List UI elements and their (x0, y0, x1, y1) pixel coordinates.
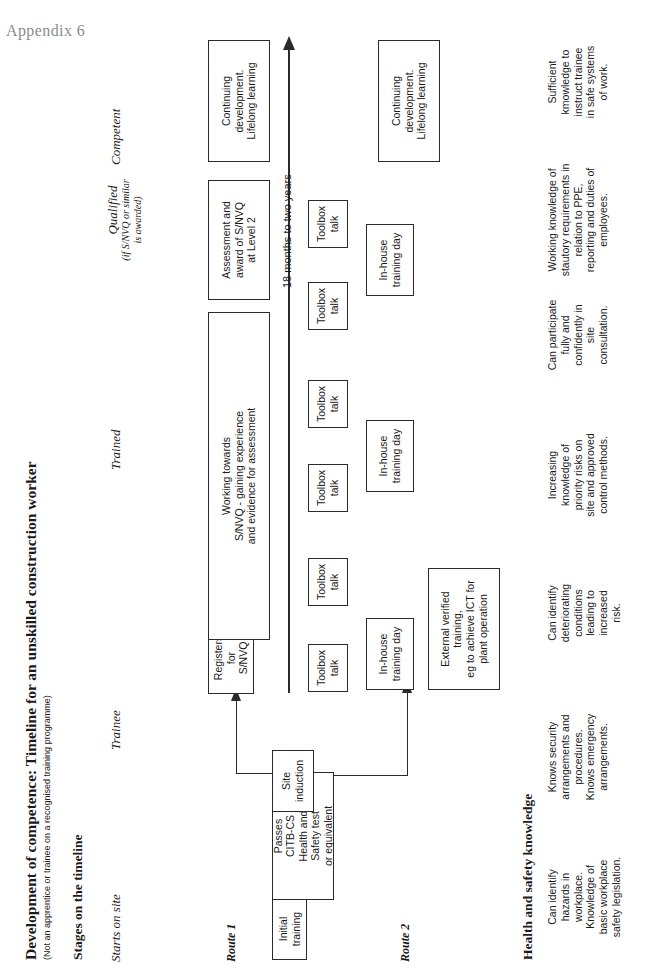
box-in-house-training-3[interactable]: In-house training day (366, 224, 414, 296)
box-site-induction[interactable]: Site induction (272, 750, 314, 812)
box-toolbox-talk-1[interactable]: Toolbox talk (308, 644, 348, 692)
page-title: Development of competence: Timeline for … (22, 60, 41, 960)
knowledge-item-6: Working knowledge of stautory requiremen… (546, 135, 610, 305)
box-continuing-development-2[interactable]: Continuing development. Lifelong learnin… (378, 40, 440, 162)
box-in-house-training-1[interactable]: In-house training day (366, 618, 414, 690)
knowledge-item-1: Can identify hazards in workplace. Knowl… (546, 832, 623, 962)
box-toolbox-talk-3[interactable]: Toolbox talk (308, 464, 348, 512)
box-toolbox-talk-2[interactable]: Toolbox talk (308, 558, 348, 606)
box-working-towards[interactable]: Working towards S/NVQ - gaining experien… (208, 312, 270, 640)
connector-route2-vertical (407, 692, 408, 776)
stages-heading: Stages on the timeline (70, 560, 86, 960)
timeline-duration-label: 18 months to two years (281, 88, 294, 288)
connector-route1-vertical (236, 700, 237, 774)
timeline-arrow-head (283, 36, 295, 50)
appendix-label: Appendix 6 (6, 22, 85, 40)
knowledge-item-4: Increasing knowledge of priority risks o… (546, 405, 610, 545)
box-toolbox-talk-5[interactable]: Toolbox talk (308, 282, 348, 330)
box-assessment-award[interactable]: Assessment and award of S/NVQ at Level 2 (208, 180, 270, 300)
box-toolbox-talk-4[interactable]: Toolbox talk (308, 380, 348, 428)
knowledge-heading: Health and safety knowledge (520, 560, 536, 960)
box-continuing-development-1[interactable]: Continuing development. Lifelong learnin… (208, 40, 270, 162)
knowledge-item-3: Can identify deteriorating conditions le… (546, 548, 623, 678)
box-external-training[interactable]: External verified training, eg to achiev… (428, 568, 500, 690)
stage-label-starts-on-site: Starts on site (108, 762, 124, 962)
route-2-label: Route 2 (398, 802, 413, 962)
box-toolbox-talk-6[interactable]: Toolbox talk (308, 200, 348, 248)
page-subtitle: (Not an apprentice or trainee on a recog… (42, 60, 53, 960)
route-1-label: Route 1 (224, 802, 239, 962)
knowledge-item-7: Sufficient kmowledge to instruct trainee… (546, 12, 610, 152)
stage-label-competent: Competent (108, 0, 124, 165)
box-initial-training[interactable]: Initial training (272, 898, 307, 960)
knowledge-item-2: Knows security arrangements and procedur… (546, 692, 610, 822)
stage-label-trainee: Trainee (108, 550, 124, 750)
box-in-house-training-2[interactable]: In-house training day (366, 420, 414, 492)
